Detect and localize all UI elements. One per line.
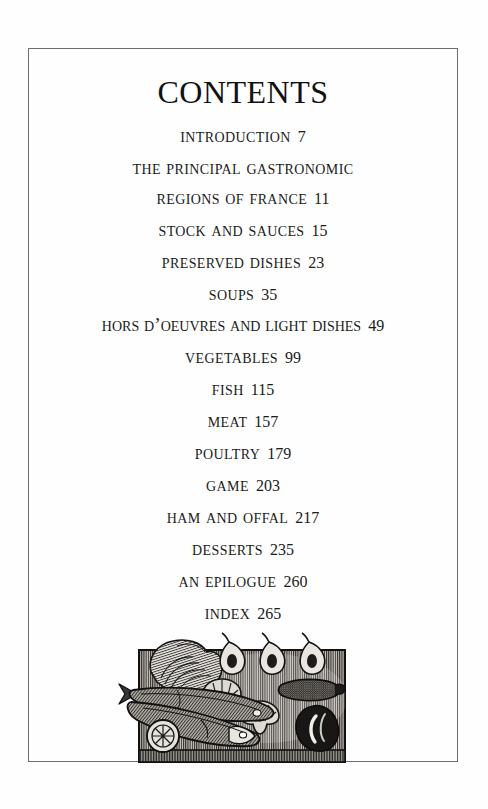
toc-entry-page-number: 179 [267, 445, 291, 462]
toc-entry-preserved-dishes[interactable]: Preserved dishes23 [28, 246, 458, 278]
toc-entry-introduction[interactable]: Introduction7 [28, 120, 458, 152]
toc-entry-label: An epilogue [178, 569, 276, 591]
toc-entry-poultry[interactable]: Poultry179 [28, 437, 458, 469]
toc-entry-page-number: 265 [257, 605, 281, 622]
lemon-slice-icon [147, 720, 179, 752]
toc-entry-page-number: 7 [298, 128, 306, 145]
chili-pepper-icon [260, 633, 285, 674]
toc-entry-label: Meat [208, 409, 248, 431]
toc-entry-an-epilogue[interactable]: An epilogue260 [28, 565, 458, 597]
toc-entry-label: Game [206, 473, 249, 495]
toc-entry-hors-doeuvres-and-light-dishes[interactable]: Hors d’oeuvres and light dishes49 [28, 310, 458, 341]
toc-entry-page-number: 35 [261, 286, 277, 303]
toc-entry-page-number: 203 [256, 477, 280, 494]
toc-entry-game[interactable]: Game203 [28, 469, 458, 501]
toc-entry-index[interactable]: Index265 [28, 597, 458, 629]
table-of-contents-list: Introduction7 The principal gastronomic … [28, 120, 458, 629]
cutting-board-illustration [117, 628, 373, 768]
toc-entry-page-number: 99 [285, 349, 301, 366]
contents-body: Contents Introduction7 The principal gas… [28, 48, 458, 629]
toc-entry-label: Hors d’oeuvres and light dishes [102, 314, 361, 335]
toc-entry-label: Stock and sauces [158, 218, 304, 240]
toc-entry-label: Introduction [180, 124, 291, 146]
toc-entry-label: Desserts [192, 537, 263, 559]
chili-pepper-icon [220, 633, 245, 674]
toc-entry-page-number: 260 [284, 573, 308, 590]
toc-entry-page-number: 15 [312, 222, 328, 239]
toc-entry-label: Soups [209, 282, 255, 304]
toc-entry-fish[interactable]: Fish115 [28, 373, 458, 405]
toc-entry-page-number: 11 [314, 190, 329, 207]
toc-entry-page-number: 217 [295, 509, 319, 526]
contents-page: Contents Introduction7 The principal gas… [0, 0, 488, 809]
toc-entry-desserts[interactable]: Desserts235 [28, 533, 458, 565]
toc-entry-label: Preserved dishes [162, 250, 301, 272]
toc-entry-label-line-1: The principal gastronomic [133, 156, 354, 178]
toc-entry-page-number: 157 [254, 413, 278, 430]
toc-entry-stock-and-sauces[interactable]: Stock and sauces15 [28, 214, 458, 246]
toc-entry-label: Ham and offal [167, 505, 289, 527]
toc-entry-gastronomic-regions[interactable]: The principal gastronomic regions of Fra… [28, 152, 458, 214]
toc-entry-meat[interactable]: Meat157 [28, 405, 458, 437]
page-title: Contents [28, 66, 458, 111]
chili-pepper-icon [300, 633, 325, 674]
toc-entry-soups[interactable]: Soups35 [28, 278, 458, 310]
toc-entry-page-number: 23 [308, 254, 324, 271]
toc-entry-page-number: 49 [368, 317, 384, 334]
toc-entry-page-number: 115 [251, 381, 274, 398]
toc-entry-vegetables[interactable]: Vegetables99 [28, 341, 458, 373]
toc-entry-page-number: 235 [270, 541, 294, 558]
toc-entry-label: Fish [212, 377, 244, 399]
toc-entry-ham-and-offal[interactable]: Ham and offal217 [28, 501, 458, 533]
toc-entry-label: Poultry [195, 441, 260, 463]
toc-entry-label: Index [205, 601, 251, 623]
kidney-bean-icon [296, 706, 339, 752]
toc-entry-label: Vegetables [185, 345, 278, 367]
toc-entry-label-line-2: regions of France [156, 186, 307, 208]
